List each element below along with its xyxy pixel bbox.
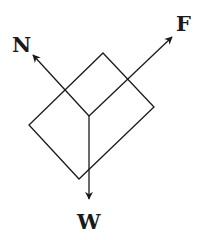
weight-label: W <box>77 211 101 232</box>
normal-force-label: N <box>12 34 31 55</box>
applied-force-arrow <box>89 37 172 116</box>
applied-force-label: F <box>176 13 191 34</box>
normal-force-arrow <box>33 55 89 116</box>
